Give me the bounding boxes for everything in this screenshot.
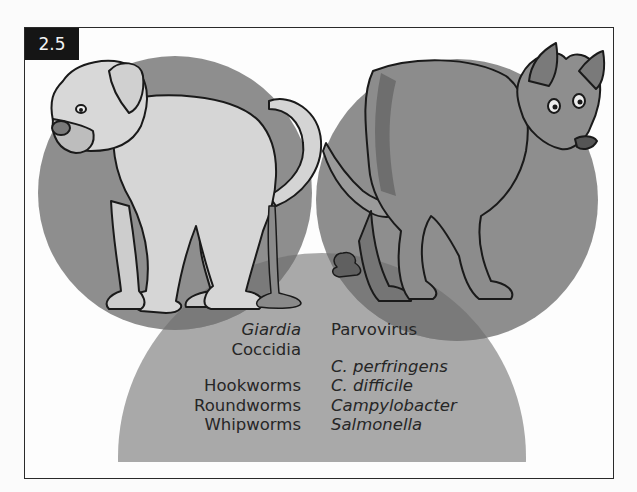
list-item-giardia: Giardia: [194, 320, 301, 340]
list-item-parvovirus: Parvovirus: [331, 320, 457, 340]
venn-illustration: [24, 27, 614, 479]
list-item-coccidia: Coccidia: [194, 340, 301, 360]
list-spacer: [194, 359, 301, 376]
figure-label: 2.5: [25, 28, 79, 60]
list-item-c-perfringens: C. perfringens: [331, 357, 457, 377]
list-item-whipworms: Whipworms: [194, 415, 301, 435]
left-pathogen-list: Giardia Coccidia Hookworms Roundworms Wh…: [194, 320, 301, 435]
list-item-campylobacter: Campylobacter: [331, 396, 457, 416]
right-pathogen-list: Parvovirus C. perfringens C. difficile C…: [331, 320, 457, 435]
list-spacer: [331, 340, 457, 357]
list-item-roundworms: Roundworms: [194, 396, 301, 416]
list-item-c-difficile: C. difficile: [331, 376, 457, 396]
list-item-salmonella: Salmonella: [331, 415, 457, 435]
list-item-hookworms: Hookworms: [194, 376, 301, 396]
figure-frame: 2.5: [24, 27, 614, 479]
